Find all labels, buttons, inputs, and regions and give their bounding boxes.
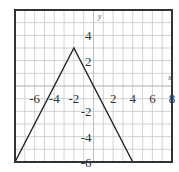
x-tick-label: 4 — [130, 91, 137, 106]
y-tick-label: -4 — [81, 130, 92, 145]
x-axis-label: x — [167, 73, 172, 82]
tick-labels: -6-4-2246842-2-4-6 — [29, 28, 175, 170]
y-axis-label: y — [97, 12, 102, 21]
x-tick-label: -6 — [29, 91, 40, 106]
x-tick-label: 2 — [110, 91, 117, 106]
y-tick-label: 4 — [85, 28, 92, 43]
x-tick-label: -4 — [49, 91, 60, 106]
x-tick-label: 6 — [149, 91, 156, 106]
y-tick-label: 2 — [85, 54, 92, 69]
graph: -6-4-2246842-2-4-6 x y — [0, 0, 179, 172]
y-tick-label: -6 — [81, 155, 92, 170]
y-tick-label: -2 — [81, 104, 92, 119]
x-tick-label: 8 — [169, 91, 176, 106]
x-tick-label: -2 — [68, 91, 79, 106]
